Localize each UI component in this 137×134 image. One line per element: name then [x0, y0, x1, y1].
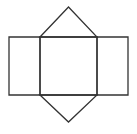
prism-net-diagram [0, 0, 137, 134]
prism-net-svg [0, 0, 137, 134]
middle-rectangle-face [40, 37, 97, 95]
left-rectangle-face [9, 37, 40, 95]
right-rectangle-face [97, 37, 128, 95]
bottom-triangle-face [40, 95, 97, 122]
top-triangle-face [40, 7, 97, 37]
